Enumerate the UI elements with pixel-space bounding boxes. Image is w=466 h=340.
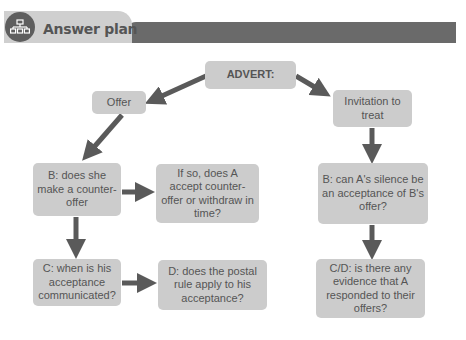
node-b-counter-offer: B: does she make a counter-offer bbox=[33, 163, 121, 216]
arrow-offer-b bbox=[88, 115, 122, 154]
arrow-advert-invitation bbox=[296, 76, 323, 92]
node-b-silence: B: can A's silence be an acceptance of B… bbox=[318, 163, 428, 224]
node-d-postal-rule: D: does the postal rule apply to his acc… bbox=[158, 260, 267, 310]
arrow-advert-offer bbox=[153, 76, 206, 100]
node-offer: Offer bbox=[92, 91, 146, 114]
node-c-acceptance: C: when is his acceptance communicated? bbox=[33, 259, 121, 306]
node-cd-evidence: C/D: is there any evidence that A respon… bbox=[316, 259, 425, 318]
node-advert: ADVERT: bbox=[205, 61, 296, 89]
node-invitation-to-treat: Invitation to treat bbox=[333, 90, 412, 127]
node-if-so: If so, does A accept counter-offer or wi… bbox=[156, 164, 259, 223]
